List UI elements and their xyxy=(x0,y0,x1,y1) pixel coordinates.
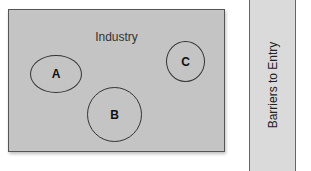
barrier-label: Barriers to Entry xyxy=(266,42,280,129)
firm-b-label: B xyxy=(110,108,119,122)
firm-a: A xyxy=(30,55,82,93)
industry-box: Industry A B C xyxy=(8,9,225,152)
firm-c-label: C xyxy=(181,55,190,69)
firm-a-label: A xyxy=(52,67,61,81)
barriers-to-entry-bar: Barriers to Entry xyxy=(249,0,296,171)
firm-b: B xyxy=(87,87,142,142)
firm-c: C xyxy=(166,41,205,82)
